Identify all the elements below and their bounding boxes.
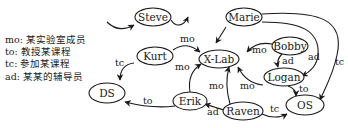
edge-label-logan-xlab: mo — [240, 80, 255, 91]
node-label-steve: Steve — [138, 11, 168, 23]
node-raven: Raven — [223, 102, 263, 120]
node-label-marie: Marie — [228, 11, 260, 23]
node-marie: Marie — [226, 8, 262, 26]
edge-label-marie-os: tc — [335, 56, 344, 67]
node-os: OS — [286, 95, 324, 115]
node-label-erik: Erik — [179, 95, 202, 107]
edge-marie-xlab — [216, 27, 226, 43]
edge-raven-os — [262, 114, 287, 117]
node-label-xlab: X-Lab — [204, 53, 235, 65]
node-kurt: Kurt — [137, 47, 173, 65]
edge-label-erik-ds: to — [143, 95, 153, 106]
node-label-kurt: Kurt — [143, 50, 167, 62]
edge-label-logan-os: to — [299, 83, 309, 94]
node-label-os: OS — [297, 99, 313, 111]
edge-label-bobby-logan: ad — [282, 55, 294, 66]
node-ds: DS — [89, 83, 125, 103]
edge-label-kurt-ds: tc — [115, 57, 124, 68]
edge-erik-xlab — [189, 64, 201, 92]
node-erik: Erik — [173, 92, 207, 110]
edge-into-steve — [107, 22, 134, 28]
edge-label-raven-os: tc — [270, 103, 279, 114]
edge-label-raven-xlab: mo — [209, 80, 224, 91]
node-steve: Steve — [135, 8, 171, 26]
node-label-ds: DS — [99, 87, 115, 99]
edge-label-raven-erik: ad — [207, 106, 219, 117]
edge-out-of-steve — [171, 17, 188, 25]
edge-raven-xlab — [227, 67, 230, 104]
node-label-raven: Raven — [226, 105, 260, 117]
edge-label-marie-logan: ad — [308, 51, 320, 62]
node-label-bobby: Bobby — [273, 40, 306, 52]
node-label-logan: Logan — [267, 71, 300, 83]
edge-logan-os — [288, 86, 296, 96]
edge-label-kurt-xlab: mo — [180, 33, 195, 44]
node-logan: Logan — [264, 68, 304, 86]
node-bobby: Bobby — [272, 37, 308, 55]
edge-label-bobby-xlab: mo — [252, 44, 267, 55]
edge-kurt-xlab — [173, 46, 200, 52]
node-xlab: X-Lab — [199, 50, 239, 68]
edge-label-erik-xlab: mo — [175, 61, 190, 72]
relation-graph: ad tc mo ad mo tc mo to mo mo to ad tc S… — [0, 0, 348, 128]
